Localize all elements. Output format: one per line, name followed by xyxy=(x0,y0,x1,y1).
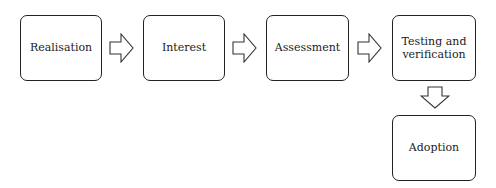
arrow-right-icon xyxy=(109,33,134,63)
step-realisation: Realisation xyxy=(20,15,102,81)
step-adoption: Adoption xyxy=(392,115,476,181)
arrow-right-icon xyxy=(357,33,382,63)
arrow-down-icon xyxy=(420,86,450,109)
step-label: Realisation xyxy=(30,41,92,54)
step-label: Interest xyxy=(162,41,206,54)
step-label: Adoption xyxy=(409,141,459,154)
step-testing-and-verification: Testing and verification xyxy=(392,15,476,81)
arrow-right-icon xyxy=(232,33,257,63)
step-assessment: Assessment xyxy=(266,15,349,81)
step-interest: Interest xyxy=(143,15,225,81)
step-label: Testing and verification xyxy=(402,35,467,61)
step-label: Assessment xyxy=(275,41,340,54)
